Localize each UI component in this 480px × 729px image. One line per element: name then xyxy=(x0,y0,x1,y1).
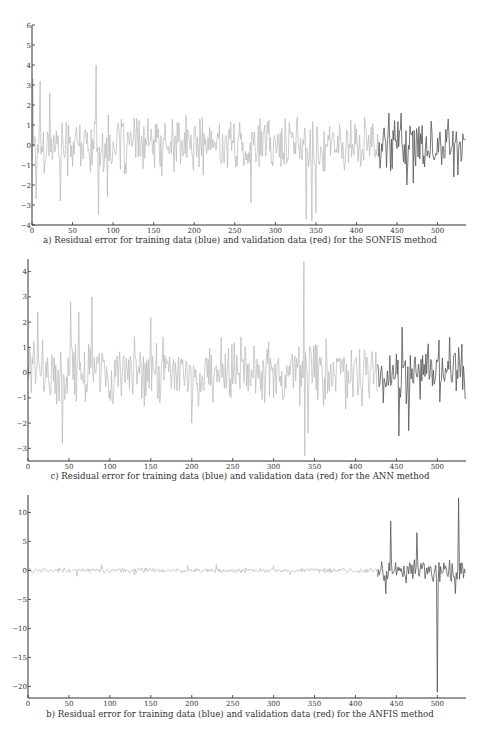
x-tick-label: 450 xyxy=(390,700,403,708)
y-tick-label: 0 xyxy=(23,567,27,575)
x-tick-label: 400 xyxy=(349,700,362,708)
y-tick-label: −5 xyxy=(17,596,27,604)
x-tick-label: 0 xyxy=(26,700,30,708)
caption-anfis: b) Residual error for training data (blu… xyxy=(0,709,480,719)
x-tick-label: 250 xyxy=(226,700,239,708)
chart-anfis: 050100150200250300350400450500−20−15−10−… xyxy=(0,0,480,729)
x-tick-label: 50 xyxy=(64,700,73,708)
series-line-validation-data xyxy=(378,498,466,692)
y-tick-label: −20 xyxy=(12,683,27,691)
chart-panel-anfis: 050100150200250300350400450500−20−15−10−… xyxy=(0,0,480,729)
y-tick-label: −15 xyxy=(12,654,27,662)
x-tick-label: 150 xyxy=(144,700,157,708)
x-tick-label: 350 xyxy=(308,700,321,708)
y-tick-label: 5 xyxy=(23,538,27,546)
y-tick-label: 10 xyxy=(18,509,27,517)
y-tick-label: −10 xyxy=(12,625,27,633)
x-tick-label: 300 xyxy=(267,700,280,708)
series-line-training-data xyxy=(28,565,378,577)
x-tick-label: 100 xyxy=(103,700,116,708)
x-tick-label: 500 xyxy=(431,700,444,708)
x-tick-label: 200 xyxy=(185,700,198,708)
